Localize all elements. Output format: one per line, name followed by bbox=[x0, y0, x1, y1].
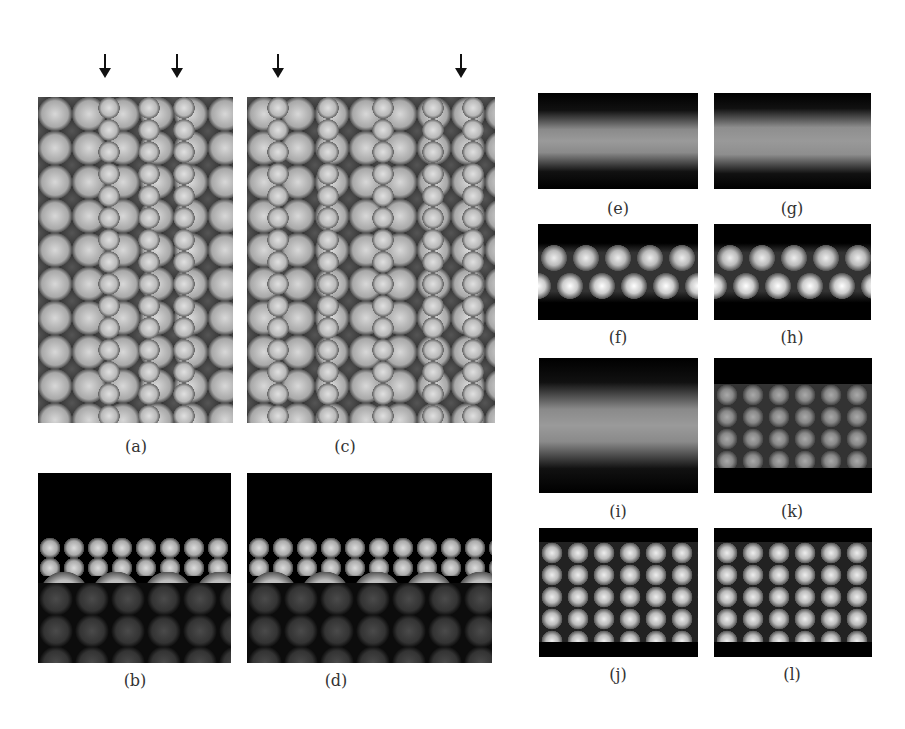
panel-c-top-view bbox=[247, 97, 495, 423]
panel-i-stm bbox=[539, 358, 698, 493]
adsorbate-layer bbox=[38, 538, 231, 576]
panel-g-stm bbox=[714, 93, 871, 189]
stm-row-pattern bbox=[539, 542, 698, 642]
panel-label-c: (c) bbox=[305, 437, 385, 456]
panel-b-side-view bbox=[38, 473, 231, 663]
adsorbate-chain bbox=[267, 97, 289, 423]
panel-label-b: (b) bbox=[95, 671, 175, 690]
panel-j-stm bbox=[539, 528, 698, 657]
panel-label-a: (a) bbox=[96, 437, 176, 456]
down-arrow-icon bbox=[104, 54, 106, 76]
adsorbate-chain bbox=[317, 97, 339, 423]
adsorbate-chain bbox=[98, 97, 120, 423]
panel-label-e: (e) bbox=[578, 199, 658, 218]
adsorbate-chain bbox=[462, 97, 484, 423]
adsorbate-chain bbox=[422, 97, 444, 423]
panel-d-side-view bbox=[247, 473, 492, 663]
down-arrow-icon bbox=[277, 54, 279, 76]
panel-label-j: (j) bbox=[578, 665, 658, 684]
panel-a-top-view bbox=[38, 97, 233, 423]
adsorbate-chain bbox=[173, 97, 195, 423]
substrate-bulk bbox=[38, 583, 231, 663]
adsorbate-chain bbox=[138, 97, 160, 423]
down-arrow-icon bbox=[176, 54, 178, 76]
adsorbate-chain bbox=[372, 97, 394, 423]
panel-k-stm bbox=[714, 358, 872, 493]
panel-e-stm bbox=[538, 93, 698, 189]
panel-label-i: (i) bbox=[578, 502, 658, 521]
panel-label-g: (g) bbox=[752, 199, 832, 218]
panel-h-stm bbox=[714, 224, 871, 320]
down-arrow-icon bbox=[460, 54, 462, 76]
panel-label-k: (k) bbox=[752, 502, 832, 521]
stm-row-pattern bbox=[714, 542, 872, 642]
panel-label-l: (l) bbox=[752, 665, 832, 684]
panel-label-f: (f) bbox=[578, 328, 658, 347]
panel-label-d: (d) bbox=[296, 671, 376, 690]
panel-l-stm bbox=[714, 528, 872, 657]
panel-label-h: (h) bbox=[752, 328, 832, 347]
panel-f-stm bbox=[538, 224, 698, 320]
adsorbate-layer bbox=[247, 538, 492, 576]
stm-row-pattern bbox=[714, 384, 872, 468]
substrate-bulk bbox=[247, 583, 492, 663]
